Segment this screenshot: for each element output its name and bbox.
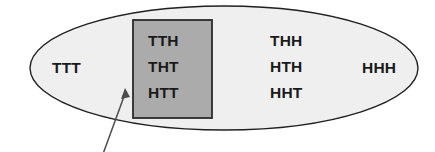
outcome-label-ttt: TTT [52,59,81,76]
outcome-label-thh: THH [270,32,302,49]
outcome-label-htt: HTT [148,84,179,101]
outcome-label-tth: TTH [148,32,179,49]
outcome-label-tht: THT [148,58,179,75]
sample-space-ellipse [30,6,418,130]
venn-diagram: TTTTTHTHTHTTTHHHTHHHTHHH [0,0,435,152]
outcome-label-hht: HHT [270,84,303,101]
outcome-label-hhh: HHH [362,59,396,76]
outcome-label-hth: HTH [270,58,302,75]
diagram-canvas: TTTTTHTHTHTTTHHHTHHHTHHH [0,0,435,152]
